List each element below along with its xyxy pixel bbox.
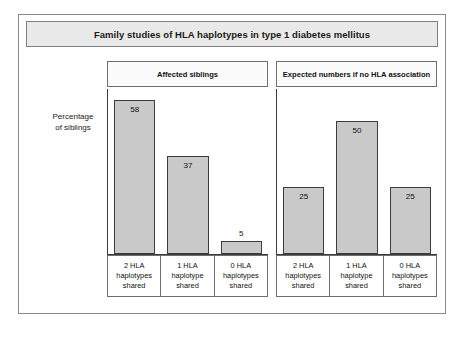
bar-value-label: 37 bbox=[168, 161, 208, 170]
panels-container: Affected siblings 58 37 bbox=[107, 61, 437, 303]
bar-group-affected-siblings: 58 37 5 bbox=[108, 89, 268, 254]
category-label: 0 HLA haplotypes shared bbox=[383, 255, 437, 297]
bar: 25 bbox=[390, 187, 432, 254]
bar: 25 bbox=[283, 187, 325, 254]
bar: 37 bbox=[167, 156, 209, 254]
bar-slot: 25 bbox=[277, 89, 330, 254]
page-title: Family studies of HLA haplotypes in type… bbox=[94, 29, 370, 40]
y-axis-label-line1: Percentage bbox=[41, 111, 105, 122]
category-label: 1 HLA haplotype shared bbox=[160, 255, 214, 297]
category-labels-expected-numbers: 2 HLA haplotypes shared 1 HLA haplotype … bbox=[276, 255, 437, 297]
bar-value-label: 5 bbox=[222, 229, 262, 238]
panel-affected-siblings: Affected siblings 58 37 bbox=[107, 61, 268, 303]
chart-title-banner: Family studies of HLA haplotypes in type… bbox=[26, 21, 438, 47]
category-label: 0 HLA haplotypes shared bbox=[214, 255, 268, 297]
bar-slot: 37 bbox=[161, 89, 214, 254]
category-label: 2 HLA haplotypes shared bbox=[276, 255, 330, 297]
bar-slot: 50 bbox=[330, 89, 383, 254]
bar-slot: 58 bbox=[108, 89, 161, 254]
figure-frame: Family studies of HLA haplotypes in type… bbox=[18, 14, 446, 314]
bar: 50 bbox=[336, 121, 378, 254]
bar-slot: 25 bbox=[384, 89, 437, 254]
category-label: 2 HLA haplotypes shared bbox=[107, 255, 161, 297]
bar: 58 bbox=[114, 100, 156, 254]
y-axis-label-line2: of siblings bbox=[41, 122, 105, 133]
bar-value-label: 50 bbox=[337, 126, 377, 135]
bar: 5 bbox=[221, 241, 263, 254]
bar-value-label: 25 bbox=[391, 192, 431, 201]
category-label: 1 HLA haplotype shared bbox=[329, 255, 383, 297]
plot-area-affected-siblings: 58 37 5 bbox=[107, 89, 268, 255]
bar-value-label: 58 bbox=[115, 105, 155, 114]
bar-group-expected-numbers: 25 50 25 bbox=[277, 89, 437, 254]
panel-header-expected-numbers: Expected numbers if no HLA association bbox=[276, 61, 437, 87]
panel-expected-numbers: Expected numbers if no HLA association 2… bbox=[276, 61, 437, 303]
bar-slot: 5 bbox=[215, 89, 268, 254]
y-axis-label: Percentage of siblings bbox=[41, 111, 105, 133]
bar-value-label: 25 bbox=[284, 192, 324, 201]
category-labels-affected-siblings: 2 HLA haplotypes shared 1 HLA haplotype … bbox=[107, 255, 268, 297]
panel-header-affected-siblings: Affected siblings bbox=[107, 61, 268, 87]
panel-header-label: Affected siblings bbox=[154, 70, 221, 79]
plot-area-expected-numbers: 25 50 25 bbox=[276, 89, 437, 255]
panel-header-label: Expected numbers if no HLA association bbox=[280, 70, 433, 79]
